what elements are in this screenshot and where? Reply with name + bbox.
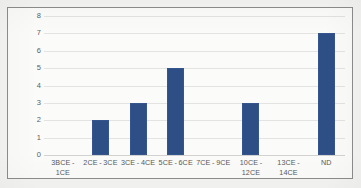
bar-slot: [232, 16, 270, 155]
x-tick-label: 3CE - 4CE: [119, 158, 157, 177]
bar-slot: [119, 16, 157, 155]
y-tick-label: 0: [27, 151, 41, 159]
bar[interactable]: [167, 68, 184, 155]
x-tick-label: ND: [307, 158, 345, 177]
bars-layer: [44, 16, 345, 155]
y-tick-label: 7: [27, 30, 41, 38]
bar-slot: [82, 16, 120, 155]
y-axis: 8 7 6 5 4 3 2 1 0: [27, 16, 44, 155]
bar-slot: [157, 16, 195, 155]
y-tick-label: 4: [27, 82, 41, 90]
plot-region: 8 7 6 5 4 3 2 1 0: [27, 16, 345, 155]
bar-chart-figure: 8 7 6 5 4 3 2 1 0: [0, 0, 361, 188]
bar-slot: [270, 16, 308, 155]
x-tick-label: 13CE - 14CE: [270, 158, 308, 177]
chart-frame-border: 8 7 6 5 4 3 2 1 0: [7, 7, 353, 179]
x-tick-label: 3BCE - 1CE: [44, 158, 82, 177]
axis-baseline: [44, 155, 345, 156]
bar[interactable]: [242, 103, 259, 155]
y-tick-label: 2: [27, 117, 41, 125]
y-tick-label: 5: [27, 64, 41, 72]
bar[interactable]: [130, 103, 147, 155]
bar[interactable]: [92, 120, 109, 155]
x-tick-label: 2CE - 3CE: [82, 158, 120, 177]
y-tick-label: 1: [27, 134, 41, 142]
x-tick-label: 7CE - 9CE: [195, 158, 233, 177]
y-tick-label: 6: [27, 47, 41, 55]
y-tick-label: 8: [27, 12, 41, 20]
bar-slot: [195, 16, 233, 155]
bar-slot: [44, 16, 82, 155]
y-tick-label: 3: [27, 99, 41, 107]
x-axis: 3BCE - 1CE 2CE - 3CE 3CE - 4CE 5CE - 6CE…: [44, 158, 345, 177]
x-tick-label: 10CE - 12CE: [232, 158, 270, 177]
bar-slot: [307, 16, 345, 155]
x-tick-label: 5CE - 6CE: [157, 158, 195, 177]
bar[interactable]: [318, 33, 335, 155]
